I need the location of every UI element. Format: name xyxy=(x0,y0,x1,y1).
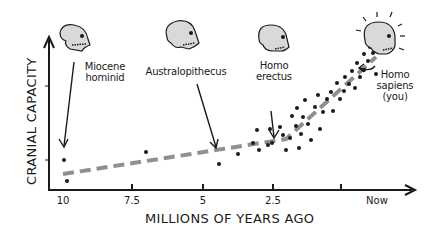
label-line: (you) xyxy=(370,91,420,102)
label-line: Miocene xyxy=(78,61,132,72)
y-axis-title: CRANIAL CAPACITY xyxy=(24,57,39,185)
label-line: sapiens xyxy=(370,80,420,91)
x-tick-5: 5 xyxy=(200,195,206,206)
x-tick-now: Now xyxy=(366,195,388,206)
skull-australopithecus-icon xyxy=(166,21,199,49)
y-axis xyxy=(44,37,54,191)
x-tick-10: 10 xyxy=(57,195,70,206)
skull-homo-sapiens-icon xyxy=(364,22,395,54)
x-axis-title: MILLIONS OF YEARS AGO xyxy=(145,211,314,226)
x-tick-2-5: 2.5 xyxy=(265,195,281,206)
label-australopithecus: Australopithecus xyxy=(142,66,230,77)
skull-miocene-icon xyxy=(60,25,90,51)
label-homo-sapiens: Homo sapiens (you) xyxy=(370,69,420,102)
label-line: hominid xyxy=(78,72,132,83)
label-line: Homo xyxy=(251,60,297,71)
label-line: Homo xyxy=(370,69,420,80)
label-miocene-hominid: Miocene hominid xyxy=(78,61,132,83)
x-tick-7-5: 7.5 xyxy=(124,195,140,206)
label-line: erectus xyxy=(251,71,297,82)
skull-homo-erectus-icon xyxy=(259,25,289,51)
x-axis xyxy=(48,184,415,195)
label-homo-erectus: Homo erectus xyxy=(251,60,297,82)
label-line: Australopithecus xyxy=(142,66,230,77)
